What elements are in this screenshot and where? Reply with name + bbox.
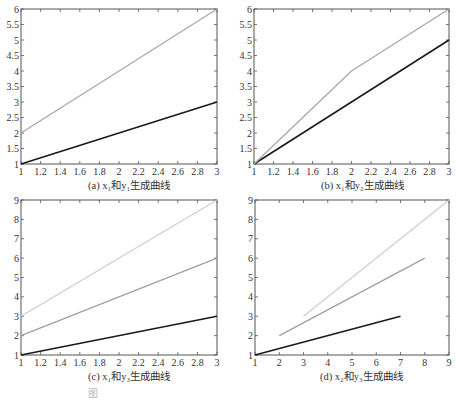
x-tick-label: 9 xyxy=(447,357,452,368)
x-tick-label: 1 xyxy=(252,166,257,177)
y-tick-label: 1.5 xyxy=(7,143,20,154)
y-tick-label: 1 xyxy=(248,350,253,361)
y-tick-label: 1 xyxy=(14,159,19,170)
x-tick-label: 1.4 xyxy=(54,166,67,177)
panel-c-caption: (c) x₁和y₃生成曲线 xyxy=(88,368,170,383)
y-tick-label: 5 xyxy=(14,35,19,46)
x-tick-label: 1.4 xyxy=(287,166,300,177)
series-line-black xyxy=(21,102,217,164)
y-tick-label: 7 xyxy=(248,233,253,244)
x-tick-label: 1 xyxy=(253,357,258,368)
x-tick-label: 2.4 xyxy=(152,166,165,177)
y-tick-label: 3.5 xyxy=(7,81,20,92)
y-tick-label: 1 xyxy=(247,159,252,170)
x-tick-label: 2.2 xyxy=(132,166,145,177)
x-tick-label: 2 xyxy=(117,166,122,177)
y-tick-label: 7 xyxy=(14,233,19,244)
plot-frame xyxy=(21,9,217,164)
x-tick-label: 2.2 xyxy=(365,166,378,177)
x-tick-label: 1 xyxy=(19,166,24,177)
y-tick-label: 1 xyxy=(14,350,19,361)
panel-a-caption: (a) x₁和y₁生成曲线 xyxy=(88,177,170,192)
x-tick-label: 2 xyxy=(277,357,282,368)
x-tick-label: 1.2 xyxy=(267,166,280,177)
y-tick-label: 6 xyxy=(14,4,19,15)
y-tick-label: 5.5 xyxy=(240,19,253,30)
x-tick-label: 7 xyxy=(398,357,403,368)
y-tick-label: 6 xyxy=(248,253,253,264)
panel-c: 11.21.41.61.822.22.42.62.83123456789 xyxy=(14,195,220,369)
figure-caption: 图 xyxy=(88,385,100,400)
y-tick-label: 2 xyxy=(14,330,19,341)
y-tick-label: 9 xyxy=(14,195,19,206)
x-tick-label: 4 xyxy=(325,357,330,368)
x-tick-label: 8 xyxy=(422,357,427,368)
panel-a: 11.21.41.61.822.22.42.62.8311.522.533.54… xyxy=(7,4,220,178)
panel-d-caption: (d) x₂和y₃生成曲线 xyxy=(320,368,403,383)
x-tick-label: 2 xyxy=(349,166,354,177)
y-tick-label: 5 xyxy=(248,272,253,283)
y-tick-label: 6 xyxy=(14,253,19,264)
x-tick-label: 1.6 xyxy=(306,166,319,177)
y-tick-label: 3.5 xyxy=(240,81,253,92)
panel-b-caption: (b) x₁和y₂生成曲线 xyxy=(321,177,404,192)
y-tick-label: 3 xyxy=(14,311,19,322)
y-tick-label: 3 xyxy=(248,311,253,322)
series-line-black xyxy=(21,316,217,355)
y-tick-label: 3 xyxy=(247,97,252,108)
series-line-mid-gray xyxy=(279,258,425,336)
x-tick-label: 2.6 xyxy=(172,357,185,368)
y-tick-label: 4 xyxy=(14,291,19,302)
x-tick-label: 1.2 xyxy=(34,166,47,177)
x-tick-label: 1.8 xyxy=(93,166,106,177)
series-line-mid-gray xyxy=(21,258,217,336)
y-tick-label: 1.5 xyxy=(240,143,253,154)
y-tick-label: 9 xyxy=(248,195,253,206)
x-tick-label: 2.6 xyxy=(404,166,417,177)
series-line-gray xyxy=(254,9,449,164)
y-tick-label: 2 xyxy=(248,330,253,341)
y-tick-label: 5 xyxy=(247,35,252,46)
x-tick-label: 1.6 xyxy=(74,166,87,177)
series-line-light-gray xyxy=(21,200,217,316)
x-tick-label: 3 xyxy=(215,357,220,368)
x-tick-label: 5 xyxy=(350,357,355,368)
series-line-black xyxy=(254,40,449,164)
series-line-gray xyxy=(21,9,217,133)
series-line-black xyxy=(255,316,401,355)
plot-frame xyxy=(254,9,449,164)
x-tick-label: 1.8 xyxy=(93,357,106,368)
x-tick-label: 2 xyxy=(117,357,122,368)
y-tick-label: 2 xyxy=(247,128,252,139)
x-tick-label: 1.6 xyxy=(74,357,87,368)
x-tick-label: 6 xyxy=(374,357,379,368)
x-tick-label: 1.8 xyxy=(326,166,339,177)
x-tick-label: 2.8 xyxy=(423,166,436,177)
panel-d: 123456789123456789 xyxy=(248,195,452,369)
y-tick-label: 5 xyxy=(14,272,19,283)
y-tick-label: 4 xyxy=(14,66,19,77)
y-tick-label: 2 xyxy=(14,128,19,139)
x-tick-label: 3 xyxy=(447,166,452,177)
y-tick-label: 3 xyxy=(14,97,19,108)
x-tick-label: 2.2 xyxy=(132,357,145,368)
y-tick-label: 2.5 xyxy=(240,112,253,123)
y-tick-label: 4 xyxy=(247,66,252,77)
y-tick-label: 4.5 xyxy=(7,50,20,61)
y-tick-label: 5.5 xyxy=(7,19,20,30)
y-tick-label: 2.5 xyxy=(7,112,20,123)
y-tick-label: 4.5 xyxy=(240,50,253,61)
plot-frame xyxy=(21,200,217,355)
x-tick-label: 2.4 xyxy=(384,166,397,177)
panel-b: 11.21.41.61.822.22.42.62.8311.522.533.54… xyxy=(240,4,452,178)
y-tick-label: 8 xyxy=(14,214,19,225)
x-tick-label: 2.4 xyxy=(152,357,165,368)
y-tick-label: 6 xyxy=(247,4,252,15)
series-line-light-gray xyxy=(304,200,450,316)
x-tick-label: 1.2 xyxy=(34,357,47,368)
y-tick-label: 8 xyxy=(248,214,253,225)
x-tick-label: 2.8 xyxy=(191,357,204,368)
x-tick-label: 2.6 xyxy=(172,166,185,177)
x-tick-label: 3 xyxy=(301,357,306,368)
